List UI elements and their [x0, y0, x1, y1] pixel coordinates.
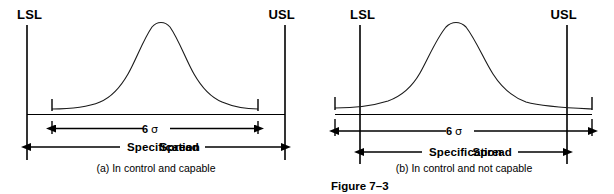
panel-a-sigma-symbol: σ [151, 123, 158, 136]
panel-b-sigma-symbol: σ [455, 125, 462, 138]
figure-number-label: Figure 7–3 [331, 180, 389, 192]
panel-b-caption: (b) In control and not capable [396, 162, 533, 174]
panel-b-sigma-number: 6 [446, 125, 452, 137]
panel-b-spread-label-spread: Spread [472, 146, 512, 158]
panel-a-distribution-curve [52, 23, 258, 110]
panel-a-usl-label: USL [268, 7, 295, 22]
panel-b-usl-label: USL [550, 7, 577, 22]
panel-a: 6 σ Specification Spread LSL USL (a) In … [17, 7, 295, 174]
panel-a-sigma-number: 6 [142, 123, 148, 135]
panel-a-lsl-label: LSL [17, 7, 42, 22]
panel-a-spread-label-spread: Spread [159, 141, 199, 153]
figure-container: 6 σ Specification Spread LSL USL (a) In … [0, 0, 614, 194]
panel-b: 6 σ Specification Spread LSL USL (b) In … [335, 7, 592, 174]
panel-a-caption: (a) In control and capable [96, 162, 215, 174]
panel-b-lsl-label: LSL [350, 7, 375, 22]
panel-b-distribution-curve [335, 23, 592, 110]
process-capability-figure: 6 σ Specification Spread LSL USL (a) In … [0, 0, 614, 194]
